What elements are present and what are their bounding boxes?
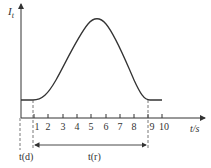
delay-label: t(d) [19,151,33,163]
tick-label: 7 [118,121,123,132]
tick-label: 4 [75,121,80,132]
tick-label: 8 [132,121,137,132]
chart: It 1 2 3 4 5 6 7 8 9 10 t/s t(d) t(r) [0,0,211,168]
current-curve [21,19,162,100]
x-tick-labels: 1 2 3 4 5 6 7 8 9 10 [35,121,170,132]
tick-label: 10 [159,121,169,132]
y-axis-label: It [7,5,15,20]
tick-label: 9 [150,121,155,132]
tick-label: 2 [46,121,51,132]
tick-label: 5 [89,121,94,132]
tick-label: 6 [104,121,109,132]
tick-label: 3 [61,121,66,132]
x-axis-label: t/s [190,123,200,134]
rise-label: t(r) [88,151,101,163]
x-ticks [34,114,162,118]
tick-label: 1 [35,121,40,132]
